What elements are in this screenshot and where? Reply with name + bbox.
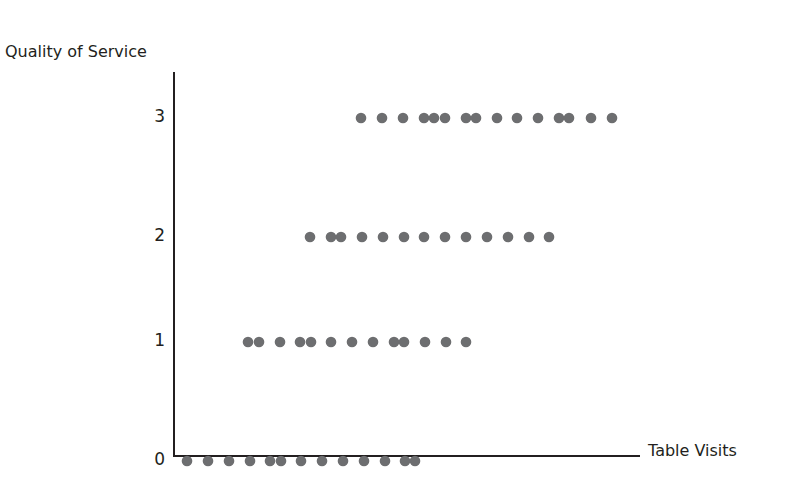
- data-point: [245, 456, 256, 467]
- data-point: [429, 113, 440, 124]
- data-point: [203, 456, 214, 467]
- data-point: [276, 456, 287, 467]
- data-point: [440, 232, 451, 243]
- data-point: [607, 113, 618, 124]
- data-point: [399, 337, 410, 348]
- data-point: [544, 232, 555, 243]
- data-point: [357, 232, 368, 243]
- data-point: [512, 113, 523, 124]
- data-point: [368, 337, 379, 348]
- chart-plot-area: [0, 0, 800, 496]
- data-point: [347, 337, 358, 348]
- data-point: [461, 113, 472, 124]
- data-point: [326, 232, 337, 243]
- data-point: [564, 113, 575, 124]
- data-point: [440, 113, 451, 124]
- data-point: [503, 232, 514, 243]
- data-point: [336, 232, 347, 243]
- data-point: [275, 337, 286, 348]
- data-point: [461, 337, 472, 348]
- data-point: [296, 456, 307, 467]
- data-point: [380, 456, 391, 467]
- data-point: [398, 113, 409, 124]
- data-point: [356, 113, 367, 124]
- data-point: [326, 337, 337, 348]
- data-point: [441, 337, 452, 348]
- data-point: [533, 113, 544, 124]
- data-point: [410, 456, 421, 467]
- data-point: [389, 337, 400, 348]
- data-point: [420, 337, 431, 348]
- data-point: [419, 232, 430, 243]
- data-point: [243, 337, 254, 348]
- data-point: [471, 113, 482, 124]
- data-point: [461, 232, 472, 243]
- data-point: [306, 337, 317, 348]
- data-point: [400, 456, 411, 467]
- data-point: [399, 232, 410, 243]
- data-point: [377, 113, 388, 124]
- data-point: [338, 456, 349, 467]
- data-point: [182, 456, 193, 467]
- data-point: [359, 456, 370, 467]
- data-point: [492, 113, 503, 124]
- data-point: [378, 232, 389, 243]
- data-point: [295, 337, 306, 348]
- data-point: [482, 232, 493, 243]
- data-point: [586, 113, 597, 124]
- data-point: [265, 456, 276, 467]
- data-point: [524, 232, 535, 243]
- data-point: [254, 337, 265, 348]
- data-point: [419, 113, 430, 124]
- data-point: [305, 232, 316, 243]
- data-point: [224, 456, 235, 467]
- data-point: [554, 113, 565, 124]
- data-point: [317, 456, 328, 467]
- data-points: [182, 113, 618, 467]
